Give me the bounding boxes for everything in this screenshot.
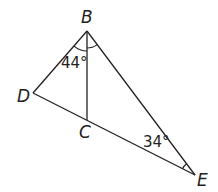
segment-de xyxy=(33,93,195,175)
angle-arc-bed xyxy=(183,164,187,169)
diagram-canvas: B D C E 44° 34° xyxy=(0,0,218,192)
vertex-label-c: C xyxy=(79,122,91,142)
angle-arc-cbe xyxy=(87,45,97,48)
segment-be xyxy=(87,31,195,175)
angle-arc-dbc xyxy=(74,46,87,51)
vertex-label-b: B xyxy=(81,7,93,27)
triangle-diagram: B D C E 44° 34° xyxy=(0,0,218,192)
angle-label-bed: 34° xyxy=(143,133,170,151)
vertex-label-d: D xyxy=(17,86,30,106)
vertex-label-e: E xyxy=(197,170,208,190)
angle-label-dbc: 44° xyxy=(61,54,88,72)
